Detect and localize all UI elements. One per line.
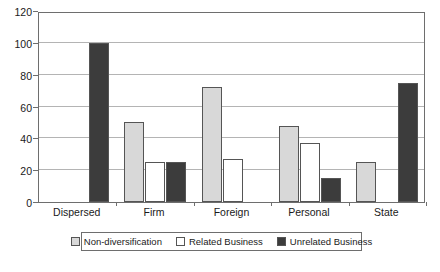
bar bbox=[145, 162, 165, 202]
y-axis-tick-label: 80 bbox=[0, 71, 32, 81]
chart-legend: Non-diversificationRelated BusinessUnrel… bbox=[81, 232, 362, 251]
bar-group bbox=[124, 13, 186, 202]
x-axis-tick-label: Dispersed bbox=[38, 206, 115, 218]
y-axis-tick-label: 60 bbox=[0, 103, 32, 113]
bar bbox=[124, 122, 144, 202]
x-axis-tick-label: Personal bbox=[270, 206, 347, 218]
bar bbox=[279, 126, 299, 202]
bar bbox=[300, 143, 320, 202]
y-axis-tick-label: 40 bbox=[0, 134, 32, 144]
bar-group bbox=[279, 13, 341, 202]
bar bbox=[321, 178, 341, 202]
y-axis-tick-label: 20 bbox=[0, 166, 32, 176]
x-axis-tick-mark bbox=[426, 202, 427, 206]
y-axis-tick-label: 0 bbox=[0, 198, 32, 208]
legend-item: Non-diversification bbox=[71, 237, 162, 247]
legend-label: Unrelated Business bbox=[290, 237, 372, 247]
bar-group bbox=[356, 13, 418, 202]
legend-swatch bbox=[176, 237, 185, 246]
bar-group bbox=[202, 13, 264, 202]
legend-label: Related Business bbox=[189, 237, 263, 247]
y-axis-tick-label: 120 bbox=[0, 7, 32, 17]
plot-area bbox=[38, 12, 425, 203]
x-axis: DispersedFirmForeignPersonalState bbox=[38, 206, 425, 222]
legend-label: Non-diversification bbox=[84, 237, 162, 247]
bar bbox=[356, 162, 376, 202]
bar-group bbox=[47, 13, 109, 202]
x-axis-tick-label: Foreign bbox=[193, 206, 270, 218]
bar bbox=[223, 159, 243, 202]
bars-layer bbox=[39, 13, 424, 202]
legend-swatch bbox=[277, 237, 286, 246]
x-axis-tick-label: Firm bbox=[115, 206, 192, 218]
x-axis-tick-label: State bbox=[348, 206, 425, 218]
bar bbox=[166, 162, 186, 202]
bar bbox=[202, 87, 222, 202]
legend-item: Related Business bbox=[176, 237, 263, 247]
bar-chart: 020406080100120 DispersedFirmForeignPers… bbox=[0, 0, 440, 272]
legend-item: Unrelated Business bbox=[277, 237, 372, 247]
bar bbox=[89, 43, 109, 202]
bar bbox=[398, 83, 418, 202]
y-axis-tick-label: 100 bbox=[0, 39, 32, 49]
legend-swatch bbox=[71, 237, 80, 246]
